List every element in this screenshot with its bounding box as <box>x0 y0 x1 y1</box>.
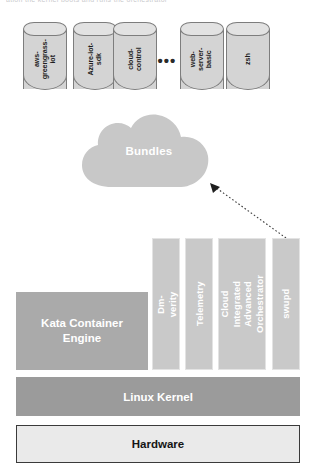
cylinder-label-wrap: zsh <box>226 29 270 89</box>
cylinder-label-wrap: cloud- control <box>113 29 157 89</box>
swupd-to-bundles-arrow <box>200 176 300 246</box>
layer-hardware[interactable]: Hardware <box>16 425 300 463</box>
cylinder-label: web- server- basic <box>190 47 215 70</box>
cylinder-aws-greengrass-iot[interactable]: aws- greengrass- iot <box>23 22 67 96</box>
bundles-cloud[interactable]: Bundles <box>78 113 220 191</box>
bar-telemetry[interactable]: Telemetry <box>185 238 213 370</box>
bar-dm-verity[interactable]: Dm-verity <box>152 238 180 370</box>
cylinder-cloud-control[interactable]: cloud- control <box>113 22 157 96</box>
cut-off-caption-sliver: ation the kernel boots and runs the orch… <box>6 0 196 4</box>
dotted-arrow-icon <box>200 176 300 246</box>
bar-label: Dm-verity <box>155 291 178 317</box>
bar-label: Cloud Integrated Advanced Orchestrator <box>219 275 265 333</box>
cylinder-label-wrap: aws- greengrass- iot <box>23 29 67 89</box>
bar-label: swupd <box>280 289 292 319</box>
cylinder-label-wrap: Azure-iot- sdk <box>73 29 117 89</box>
cylinder-web-server-basic[interactable]: web- server- basic <box>180 22 224 96</box>
layer-kata-container-engine[interactable]: Kata Container Engine <box>16 292 148 370</box>
bar-cloud-integrated-advanced-orchestrator[interactable]: Cloud Integrated Advanced Orchestrator <box>218 238 266 370</box>
cloud-label: Bundles <box>78 145 220 157</box>
layer-linux-kernel[interactable]: Linux Kernel <box>16 377 300 416</box>
cylinder-label: zsh <box>244 53 252 65</box>
cylinder-label: aws- greengrass- iot <box>33 39 58 79</box>
cylinders-ellipsis: ••• <box>153 52 181 69</box>
cylinder-label-wrap: web- server- basic <box>180 29 224 89</box>
bar-label: Telemetry <box>193 282 205 327</box>
cylinder-azure-iot-sdk[interactable]: Azure-iot- sdk <box>73 22 117 96</box>
cylinder-label: Azure-iot- sdk <box>87 43 103 76</box>
diagram-canvas: ation the kernel boots and runs the orch… <box>0 0 316 470</box>
cylinder-zsh[interactable]: zsh <box>226 22 270 96</box>
bar-swupd[interactable]: swupd <box>272 238 300 370</box>
cut-off-caption-text: ation the kernel boots and runs the orch… <box>6 0 196 3</box>
cylinder-label: cloud- control <box>127 47 143 71</box>
